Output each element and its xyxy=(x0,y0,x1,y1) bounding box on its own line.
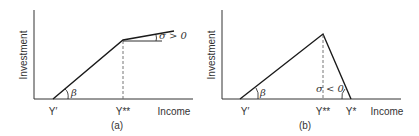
beta-angle-arc-a xyxy=(65,89,68,99)
ylabel-a: Investment xyxy=(18,30,29,79)
x-tick-y-double-star-b: Y** xyxy=(316,106,331,117)
beta-label-b: β xyxy=(259,87,266,98)
beta-label-a: β xyxy=(70,87,77,98)
caption-b: (b) xyxy=(299,120,311,131)
x-tick-y-prime-a: Y′ xyxy=(49,106,58,117)
sigma-angle-arc-a xyxy=(156,35,157,41)
x-tick-y-prime-b: Y′ xyxy=(241,106,250,117)
sigma-label-a: σ > 0 xyxy=(159,30,188,41)
panel-b: Investment β σ < 0 Y′ Y** Y* Income (b) xyxy=(206,10,404,131)
xlabel-a: Income xyxy=(158,106,191,117)
investment-income-diagram: Investment β σ > 0 Y′ Y** Income (a) Inv… xyxy=(0,0,419,136)
caption-a: (a) xyxy=(111,120,123,131)
xlabel-b: Income xyxy=(371,106,404,117)
beta-angle-arc-b xyxy=(256,88,258,99)
ylabel-b: Investment xyxy=(206,30,217,79)
panel-a: Investment β σ > 0 Y′ Y** Income (a) xyxy=(18,10,193,131)
sigma-label-b: σ < 0 xyxy=(316,83,345,94)
x-tick-y-star-b: Y* xyxy=(346,106,357,117)
x-tick-y-double-star-a: Y** xyxy=(116,106,131,117)
